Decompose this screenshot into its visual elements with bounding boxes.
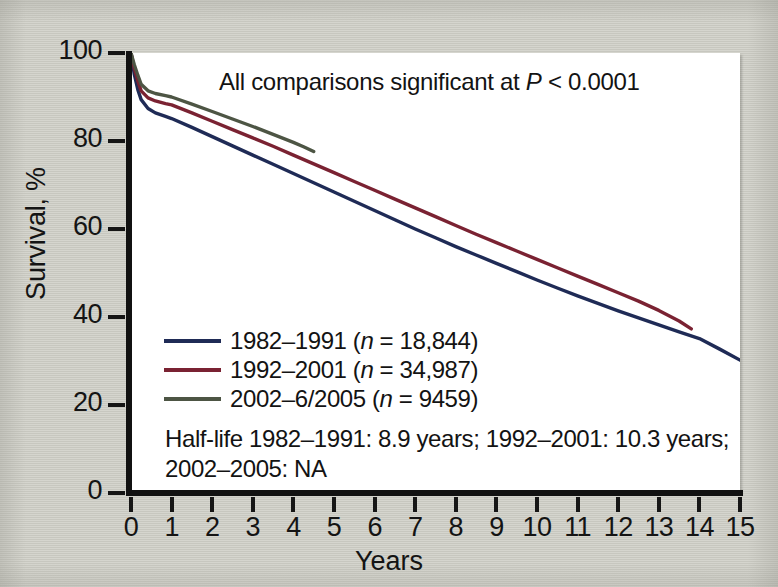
- x-tick-mark: [210, 497, 214, 512]
- x-tick-mark: [373, 497, 377, 512]
- x-tick-label: 11: [555, 512, 601, 543]
- x-tick-label: 5: [311, 512, 357, 543]
- legend-label-n-symbol: n: [380, 385, 393, 412]
- survival-curve-1: [131, 53, 740, 360]
- x-tick-mark: [535, 497, 539, 512]
- legend-color-swatch: [164, 339, 221, 343]
- y-tick-mark: [108, 403, 125, 407]
- legend-item-label: 2002–6/2005 (n = 9459): [230, 385, 478, 413]
- x-tick-label: 6: [352, 512, 398, 543]
- x-tick-mark: [697, 497, 701, 512]
- x-tick-label: 3: [230, 512, 276, 543]
- legend-color-swatch: [164, 397, 221, 401]
- legend-item-1: 1982–1991 (n = 18,844): [164, 326, 478, 355]
- x-tick-mark: [332, 497, 336, 512]
- legend-label-n-symbol: n: [360, 356, 373, 383]
- legend-label-n-symbol: n: [360, 327, 373, 354]
- legend-label-prefix: 1982–1991 (: [230, 327, 360, 354]
- x-tick-mark: [616, 497, 620, 512]
- y-axis-line: [126, 51, 132, 496]
- legend-item-3: 2002–6/2005 (n = 9459): [164, 384, 478, 413]
- y-tick-label: 20: [34, 387, 102, 418]
- x-axis-title: Years: [0, 546, 778, 577]
- legend-item-label: 1992–2001 (n = 34,987): [230, 356, 478, 384]
- y-tick-mark: [108, 491, 125, 495]
- x-tick-label: 10: [514, 512, 560, 543]
- y-tick-label: 0: [34, 475, 102, 506]
- x-axis-line: [126, 490, 743, 496]
- legend-label-suffix: = 34,987): [373, 356, 478, 383]
- significance-suffix: < 0.0001: [542, 68, 640, 95]
- x-tick-mark: [454, 497, 458, 512]
- legend-item-label: 1982–1991 (n = 18,844): [230, 327, 478, 355]
- figure-root: 020406080100 Survival, % 012345678910111…: [0, 0, 778, 587]
- x-tick-label: 0: [108, 512, 154, 543]
- halflife-line-2: 2002–2005: NA: [165, 454, 729, 484]
- x-tick-mark: [494, 497, 498, 512]
- legend: 1982–1991 (n = 18,844)1992–2001 (n = 34,…: [164, 326, 478, 413]
- y-tick-mark: [108, 51, 125, 55]
- y-axis-title: Survival, %: [21, 114, 52, 354]
- halflife-line-1: Half-life 1982–1991: 8.9 years; 1992–200…: [165, 424, 729, 454]
- significance-prefix: All comparisons significant at: [219, 68, 526, 95]
- significance-p-symbol: P: [526, 68, 542, 95]
- legend-color-swatch: [164, 368, 221, 372]
- x-tick-label: 8: [433, 512, 479, 543]
- x-tick-mark: [170, 497, 174, 512]
- x-tick-mark: [413, 497, 417, 512]
- legend-label-suffix: = 9459): [393, 385, 479, 412]
- x-tick-label: 13: [636, 512, 682, 543]
- y-tick-mark: [108, 139, 125, 143]
- x-tick-label: 1: [149, 512, 195, 543]
- x-tick-label: 2: [189, 512, 235, 543]
- x-tick-label: 14: [676, 512, 722, 543]
- y-tick-mark: [108, 315, 125, 319]
- x-tick-label: 12: [595, 512, 641, 543]
- x-tick-mark: [576, 497, 580, 512]
- legend-label-prefix: 1992–2001 (: [230, 356, 360, 383]
- x-tick-mark: [738, 497, 742, 512]
- y-tick-mark: [108, 227, 125, 231]
- x-tick-label: 7: [392, 512, 438, 543]
- x-tick-mark: [129, 497, 133, 512]
- halflife-annotation: Half-life 1982–1991: 8.9 years; 1992–200…: [165, 424, 729, 484]
- x-tick-label: 4: [270, 512, 316, 543]
- legend-item-2: 1992–2001 (n = 34,987): [164, 355, 478, 384]
- x-tick-mark: [251, 497, 255, 512]
- legend-label-suffix: = 18,844): [373, 327, 478, 354]
- x-tick-label: 15: [717, 512, 763, 543]
- x-tick-mark: [657, 497, 661, 512]
- significance-annotation: All comparisons significant at P < 0.000…: [219, 68, 640, 96]
- legend-label-prefix: 2002–6/2005 (: [230, 385, 380, 412]
- x-tick-mark: [291, 497, 295, 512]
- y-tick-label: 100: [34, 35, 102, 66]
- x-tick-label: 9: [473, 512, 519, 543]
